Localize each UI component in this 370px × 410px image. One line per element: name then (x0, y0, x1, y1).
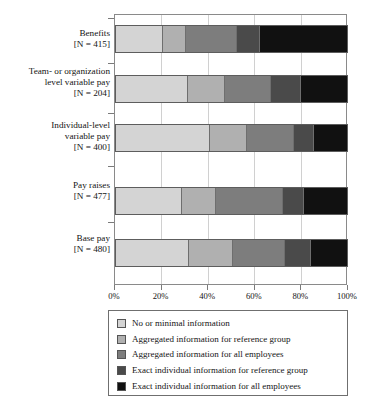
stacked-bar (115, 75, 348, 103)
bar-segment (294, 125, 314, 151)
bar-segment (233, 240, 285, 266)
x-axis-tick-label: 0% (94, 291, 134, 301)
legend-item: Exact individual information for all emp… (117, 378, 347, 394)
bar-segment (283, 188, 304, 214)
bar-segment (225, 76, 271, 102)
bar-segment (260, 26, 347, 52)
x-axis-tick-label: 60% (234, 291, 274, 301)
bar-segment (186, 26, 237, 52)
stacked-bar (115, 187, 348, 215)
x-axis-tick (300, 285, 301, 290)
bar-segment (285, 240, 312, 266)
bar-segment (311, 240, 347, 266)
y-axis-label-team-org: Team- or organization level variable pay… (0, 66, 110, 98)
legend-swatch-icon (117, 335, 126, 344)
legend-swatch-icon (117, 382, 126, 391)
chart-root: Benefits [N = 415] Team- or organization… (0, 0, 370, 410)
legend-swatch-icon (117, 366, 126, 375)
legend-item-label: Exact individual information for all emp… (132, 381, 301, 392)
y-axis-label-benefits: Benefits [N = 415] (0, 28, 110, 50)
x-axis-tick (207, 285, 208, 290)
bar-segment (116, 240, 189, 266)
legend-item: Exact individual information for referen… (117, 363, 347, 379)
legend-item-label: Aggregated information for all employees (132, 349, 283, 360)
x-axis-tick-label: 100% (327, 291, 367, 301)
stacked-bar (115, 124, 348, 152)
bar-segment (163, 26, 186, 52)
bar-segment (237, 26, 260, 52)
y-axis-label-pay-raises: Pay raises [N = 477] (0, 180, 110, 202)
legend-item: No or minimal information (117, 316, 347, 332)
legend-item-label: Aggregated information for reference gro… (132, 334, 290, 345)
legend-item-label: No or minimal information (132, 318, 230, 329)
stacked-bar (115, 239, 348, 267)
stacked-bar (115, 25, 348, 53)
legend-swatch-icon (117, 350, 126, 359)
bar-segment (116, 76, 188, 102)
x-axis-tick (347, 285, 348, 290)
bar-segment (247, 125, 294, 151)
legend-swatch-icon (117, 319, 126, 328)
x-axis-tick-label: 80% (280, 291, 320, 301)
x-axis-tick (114, 285, 115, 290)
bar-segment (271, 76, 301, 102)
bar-segment (301, 76, 347, 102)
bar-segment (216, 188, 283, 214)
bar-segment (210, 125, 247, 151)
legend-item: Aggregated information for all employees (117, 347, 347, 363)
plot-area (114, 14, 347, 285)
x-axis-tick-labels: 0%20%40%60%80%100% (0, 291, 370, 305)
legend-item: Aggregated information for reference gro… (117, 332, 347, 348)
x-axis-tick (161, 285, 162, 290)
y-axis-label-base-pay: Base pay [N = 480] (0, 233, 110, 255)
x-axis-tick (254, 285, 255, 290)
bar-segment (116, 188, 182, 214)
bar-segment (182, 188, 217, 214)
x-axis-tick-label: 40% (187, 291, 227, 301)
bar-segment (304, 188, 347, 214)
legend: No or minimal information Aggregated inf… (108, 310, 348, 396)
y-axis-label-individual: Individual-level variable pay [N = 400] (0, 120, 110, 152)
bar-segment (188, 76, 225, 102)
bar-segment (116, 125, 210, 151)
bar-segment (116, 26, 163, 52)
x-axis-tick-label: 20% (141, 291, 181, 301)
y-axis-labels: Benefits [N = 415] Team- or organization… (0, 14, 110, 285)
bar-segment (314, 125, 348, 151)
bar-segment (189, 240, 233, 266)
legend-item-label: Exact individual information for referen… (132, 365, 308, 376)
